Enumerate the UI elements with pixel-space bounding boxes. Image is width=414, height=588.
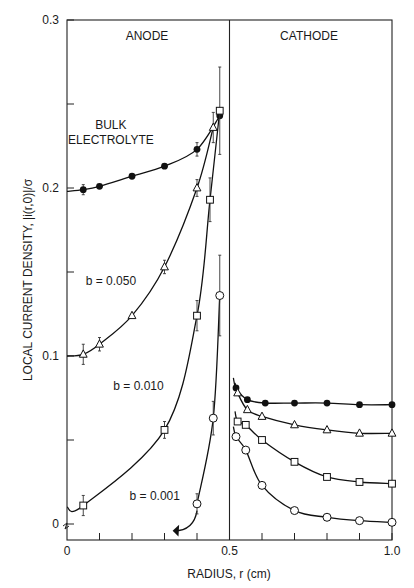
y-tick-label: 0.3: [42, 13, 59, 27]
marker-open-circle: [209, 414, 217, 422]
marker-open-circle: [258, 481, 266, 489]
marker-open-triangle: [161, 263, 169, 270]
chart-container: 00.51.000.10.20.3 RADIUS, r (cm) LOCAL C…: [0, 0, 414, 588]
marker-filled-circle: [161, 163, 168, 170]
marker-open-square: [324, 474, 331, 481]
marker-open-circle: [216, 292, 224, 300]
x-tick-label: 0.5: [221, 544, 238, 558]
x-tick-label: 1.0: [384, 544, 401, 558]
y-tick-label: 0: [52, 517, 59, 531]
x-tick-label: 0: [64, 544, 71, 558]
marker-open-square: [242, 421, 249, 428]
region-label-anode: ANODE: [126, 29, 169, 43]
marker-filled-circle: [129, 173, 136, 180]
marker-open-square: [194, 312, 201, 319]
marker-open-square: [161, 427, 168, 434]
marker-open-triangle: [96, 340, 104, 347]
marker-open-square: [207, 196, 214, 203]
current-density-plot: 00.51.000.10.20.3 RADIUS, r (cm) LOCAL C…: [0, 0, 414, 588]
y-axis-label: LOCAL CURRENT DENSITY, |i(r,0)|/σ: [21, 178, 35, 381]
marker-open-square: [291, 458, 298, 465]
fitted-curve: [235, 411, 392, 483]
marker-filled-circle: [291, 400, 298, 407]
marker-open-circle: [323, 513, 331, 521]
marker-filled-circle: [194, 146, 201, 153]
marker-filled-circle: [244, 396, 251, 403]
marker-filled-circle: [96, 183, 103, 190]
x-axis-label: RADIUS, r (cm): [187, 567, 270, 581]
marker-open-circle: [232, 433, 240, 441]
marker-open-triangle: [209, 123, 217, 130]
marker-open-square: [259, 437, 266, 444]
fitted-curve: [67, 128, 213, 356]
arrowhead-icon: [173, 525, 180, 537]
marker-open-triangle: [193, 184, 201, 191]
marker-filled-circle: [389, 401, 396, 408]
region-label-cathode: CATHODE: [280, 29, 338, 43]
fitted-curve: [233, 378, 392, 405]
marker-open-circle: [388, 518, 396, 526]
marker-open-circle: [193, 500, 201, 508]
marker-open-square: [216, 107, 223, 114]
marker-open-circle: [291, 507, 299, 515]
marker-filled-circle: [80, 186, 87, 193]
annotation-label: b = 0.010: [113, 379, 164, 393]
marker-open-square: [80, 502, 87, 509]
annotation-label: ELECTROLYTE: [68, 133, 154, 147]
y-tick-label: 0.2: [42, 181, 59, 195]
marker-open-square: [389, 480, 396, 487]
marker-filled-circle: [262, 400, 269, 407]
marker-filled-circle: [356, 401, 363, 408]
annotations: BULKELECTROLYTEb = 0.050b = 0.010b = 0.0…: [68, 118, 180, 503]
marker-open-square: [356, 479, 363, 486]
marker-open-square: [234, 418, 241, 425]
annotation-label: b = 0.001: [130, 489, 181, 503]
y-tick-label: 0.1: [42, 349, 59, 363]
fitted-curve: [235, 383, 392, 434]
marker-open-circle: [356, 517, 364, 525]
marker-filled-circle: [324, 400, 331, 407]
marker-open-circle: [242, 446, 250, 454]
fitted-curve: [233, 427, 392, 523]
annotation-label: BULK: [95, 118, 126, 132]
annotation-label: b = 0.050: [86, 274, 137, 288]
marker-open-triangle: [388, 429, 396, 436]
fitted-curve: [197, 296, 220, 504]
